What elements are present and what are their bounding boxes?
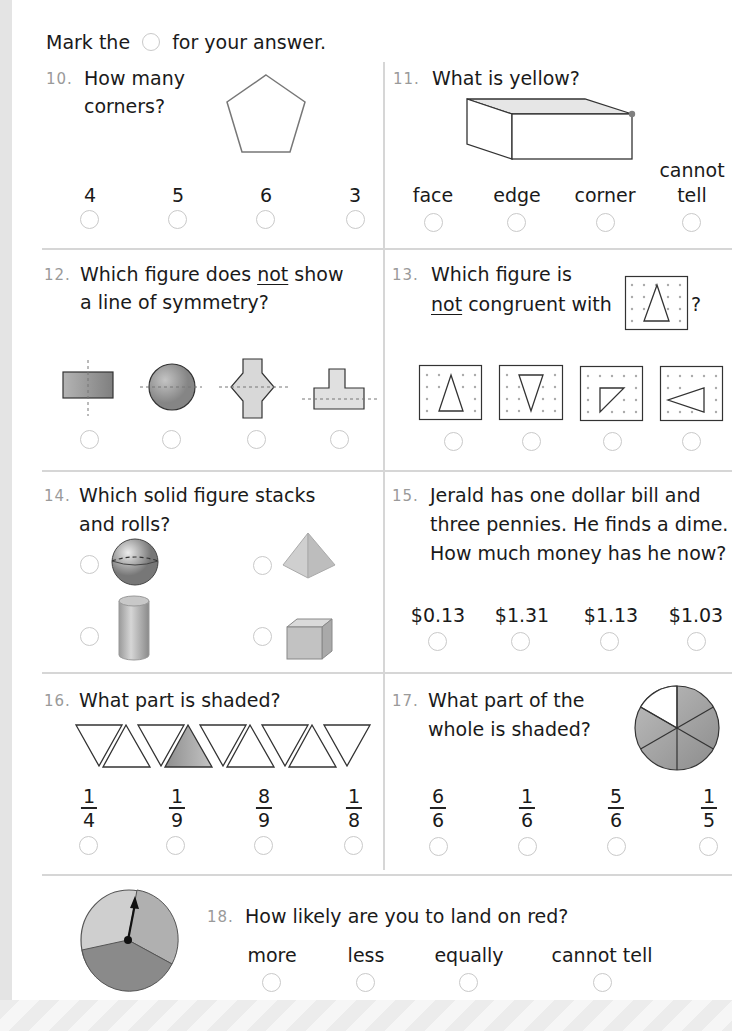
option-label: 5 xyxy=(172,184,184,206)
option-label: $1.31 xyxy=(495,604,549,626)
answer-bubble-q17-b[interactable] xyxy=(518,837,537,856)
option-fraction: 18 xyxy=(346,786,362,830)
answer-bubble-q11-c[interactable] xyxy=(596,213,615,232)
option-fraction: 56 xyxy=(608,786,624,830)
question-text: a line of symmetry? xyxy=(80,290,269,315)
answer-bubble-q14-cube[interactable] xyxy=(253,627,272,646)
answer-bubble-q18-d[interactable] xyxy=(593,973,612,992)
answer-bubble-q12-d[interactable] xyxy=(330,430,349,449)
answer-bubble-q13-c[interactable] xyxy=(603,432,622,451)
question-text: What part is shaded? xyxy=(79,688,281,713)
answer-bubble-q15-d[interactable] xyxy=(687,632,706,651)
instruction-after: for your answer. xyxy=(172,31,326,53)
answer-bubble-q14-sphere[interactable] xyxy=(80,555,99,574)
question-text: ? xyxy=(691,292,701,317)
option-label: face xyxy=(413,184,453,206)
answer-bubble-q10-b[interactable] xyxy=(168,210,187,229)
question-number: 13. xyxy=(392,263,419,288)
option-fraction: 89 xyxy=(256,786,272,830)
answer-bubble-q16-a[interactable] xyxy=(79,836,98,855)
cylinder-icon xyxy=(117,593,151,663)
t-shape-horizontal-line-icon xyxy=(302,367,378,413)
spinner-icon xyxy=(79,888,179,992)
question-text: How much money has he now? xyxy=(430,541,726,566)
option-label: more xyxy=(247,944,296,966)
row-divider-3 xyxy=(42,672,732,674)
question-text: Which solid figure stacks xyxy=(79,483,315,508)
question-text: and rolls? xyxy=(79,512,170,537)
dot-grid-triangle-up-icon xyxy=(419,365,482,421)
answer-bubble-q17-a[interactable] xyxy=(429,837,448,856)
option-fraction: 19 xyxy=(169,786,185,830)
answer-bubble-q10-a[interactable] xyxy=(80,210,99,229)
answer-bubble-q12-c[interactable] xyxy=(247,430,266,449)
option-label: 3 xyxy=(349,184,361,206)
answer-bubble-q18-a[interactable] xyxy=(262,973,281,992)
answer-bubble-q18-b[interactable] xyxy=(356,973,375,992)
answer-bubble-q10-c[interactable] xyxy=(256,210,275,229)
question-text: How likely are you to land on red? xyxy=(245,904,568,929)
option-label: 4 xyxy=(84,184,96,206)
answer-bubble-q12-b[interactable] xyxy=(162,430,181,449)
answer-bubble-q11-d[interactable] xyxy=(682,213,701,232)
question-text: Which figure does not show xyxy=(80,262,343,287)
row-divider-2 xyxy=(42,470,732,472)
answer-bubble-q14-pyramid[interactable] xyxy=(253,556,272,575)
answer-bubble-q10-d[interactable] xyxy=(346,210,365,229)
row-divider-1 xyxy=(42,248,732,250)
bubble-example-icon xyxy=(142,33,160,51)
circle-horizontal-line-icon xyxy=(140,362,202,414)
option-label: $0.13 xyxy=(411,604,465,626)
question-number: 18. xyxy=(207,905,234,930)
dot-grid-reference-triangle-icon xyxy=(625,276,689,331)
answer-bubble-q18-c[interactable] xyxy=(459,973,478,992)
sphere-icon xyxy=(110,537,160,587)
answer-bubble-q15-c[interactable] xyxy=(600,632,619,651)
question-text: whole is shaded? xyxy=(428,717,591,742)
option-label: equally xyxy=(434,944,503,966)
option-fraction: 66 xyxy=(430,786,446,830)
answer-bubble-q12-a[interactable] xyxy=(80,430,99,449)
option-label: $1.03 xyxy=(669,604,723,626)
option-label: $1.13 xyxy=(584,604,638,626)
emphasis-not: not xyxy=(257,263,288,285)
answer-bubble-q13-d[interactable] xyxy=(682,432,701,451)
answer-bubble-q16-c[interactable] xyxy=(254,836,273,855)
answer-bubble-q11-b[interactable] xyxy=(507,213,526,232)
option-label: cannot xyxy=(659,159,724,181)
answer-bubble-q15-b[interactable] xyxy=(511,632,530,651)
option-fraction: 15 xyxy=(701,786,717,830)
dot-grid-triangle-down-icon xyxy=(499,365,563,421)
answer-bubble-q17-d[interactable] xyxy=(699,837,718,856)
answer-bubble-q13-b[interactable] xyxy=(522,432,541,451)
cube-icon xyxy=(285,617,335,662)
row-divider-4 xyxy=(42,874,732,876)
answer-bubble-q16-d[interactable] xyxy=(344,836,363,855)
instruction-before: Mark the xyxy=(46,31,130,53)
option-fraction: 16 xyxy=(519,786,535,830)
answer-bubble-q13-a[interactable] xyxy=(444,432,463,451)
answer-bubble-q15-a[interactable] xyxy=(428,632,447,651)
question-text: What part of the xyxy=(428,688,585,713)
option-label: cannot tell xyxy=(552,944,653,966)
instruction: Mark the for your answer. xyxy=(46,30,326,55)
question-number: 15. xyxy=(392,484,419,509)
question-number: 12. xyxy=(44,263,71,288)
answer-bubble-q17-c[interactable] xyxy=(607,837,626,856)
question-text: What is yellow? xyxy=(432,66,580,91)
question-text: not congruent with xyxy=(431,292,612,317)
question-number: 10. xyxy=(46,67,73,92)
answer-bubble-q16-b[interactable] xyxy=(166,836,185,855)
answer-bubble-q11-a[interactable] xyxy=(424,213,443,232)
rectangle-vertical-line-icon xyxy=(60,358,120,418)
question-number: 14. xyxy=(44,484,71,509)
option-label: edge xyxy=(493,184,541,206)
option-label: less xyxy=(348,944,385,966)
question-text: Which figure is xyxy=(431,262,572,287)
emphasis-not: not xyxy=(431,293,462,315)
question-number: 11. xyxy=(393,67,420,92)
answer-bubble-q14-cylinder[interactable] xyxy=(80,627,99,646)
pentagon-icon xyxy=(225,73,307,155)
circle-sixths-icon xyxy=(633,684,721,772)
option-label: 6 xyxy=(260,184,272,206)
